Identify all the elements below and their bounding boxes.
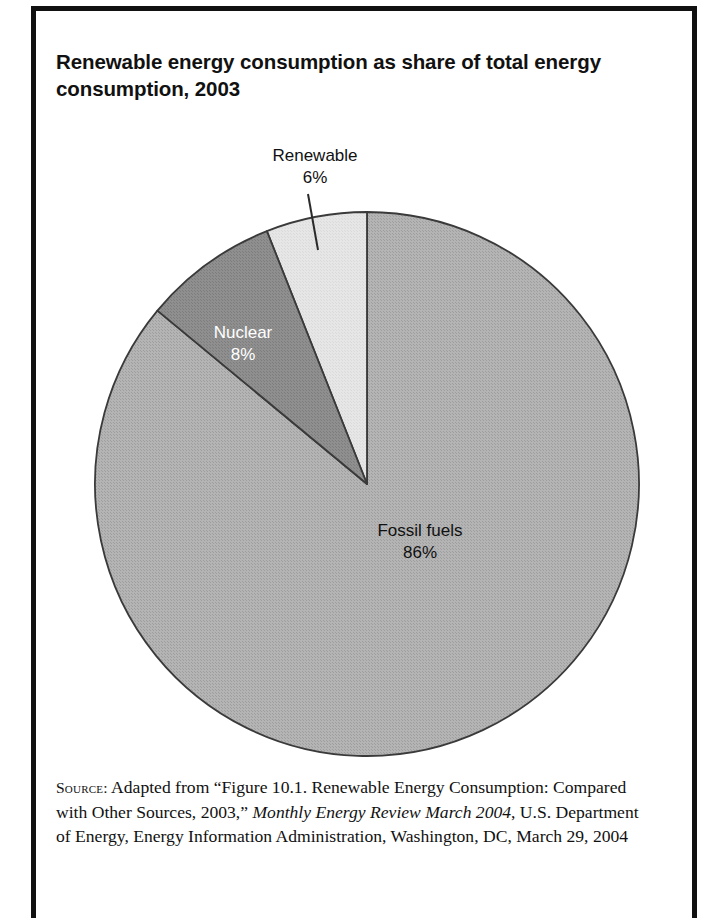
source-note: Source: Adapted from “Figure 10.1. Renew… [56, 775, 651, 849]
pie-label-fossil-fuels-name: Fossil fuels [335, 520, 505, 542]
source-kicker: Source: [56, 779, 108, 796]
pie-label-renewable: Renewable 6% [180, 145, 450, 190]
pie-label-fossil-fuels: Fossil fuels 86% [335, 520, 505, 565]
pie-label-renewable-name: Renewable [180, 145, 450, 167]
pie-label-fossil-fuels-value: 86% [335, 542, 505, 564]
pie-label-nuclear: Nuclear 8% [168, 322, 318, 367]
source-publication-title: Monthly Energy Review March 2004 [252, 802, 511, 822]
pie-label-nuclear-name: Nuclear [168, 322, 318, 344]
pie-label-renewable-value: 6% [180, 167, 450, 189]
pie-label-nuclear-value: 8% [168, 344, 318, 366]
chart-title: Renewable energy consumption as share of… [56, 48, 631, 103]
